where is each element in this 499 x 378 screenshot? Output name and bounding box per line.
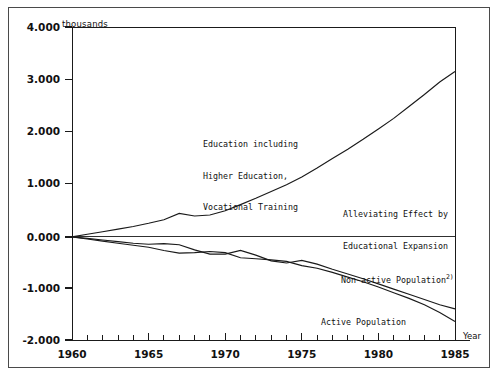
- y-tick-label-1000: 1.000: [0, 177, 60, 189]
- annotation-education-line2: Higher Education,: [203, 171, 298, 182]
- y-tick-label-3000: 3.000: [0, 73, 60, 85]
- y-tick-label-4000: 4.000: [0, 21, 60, 33]
- annotation-active-text: Active Population: [321, 317, 406, 327]
- x-tick-label-1980: 1980: [348, 348, 408, 360]
- annotation-nonactive-population: Non-active Population2): [321, 261, 454, 295]
- x-tick-label-1970: 1970: [195, 348, 255, 360]
- y-tick-label-0000: 0.000: [0, 231, 60, 243]
- x-tick-label-1975: 1975: [272, 348, 332, 360]
- annotation-education: Education including Higher Education, Vo…: [203, 118, 298, 234]
- x-tick-label-1960: 1960: [42, 348, 102, 360]
- x-tick-label-1985: 1985: [425, 348, 485, 360]
- annotation-nonactive-footnote: 2): [446, 273, 454, 281]
- y-tick-label-2000: 2.000: [0, 125, 60, 137]
- x-tick-label-1965: 1965: [119, 348, 179, 360]
- annotation-education-line1: Education including: [203, 139, 298, 150]
- x-axis-name-label: Year: [463, 331, 481, 341]
- y-tick-marks: [65, 27, 72, 340]
- figure-container: thousands 4.000 3.000 2.000 1.000 0.000 …: [0, 0, 499, 378]
- annotation-active-population: Active Population: [301, 306, 406, 338]
- annotation-alleviating-line2: Educational Expansion: [343, 241, 448, 252]
- annotation-education-line3: Vocational Training: [203, 202, 298, 213]
- annotation-nonactive-text: Non-active Population: [341, 274, 446, 284]
- y-tick-label-neg2000: -2.000: [0, 334, 60, 346]
- annotation-alleviating-line1: Alleviating Effect by: [343, 209, 448, 220]
- y-axis-unit-label: thousands: [62, 19, 108, 29]
- annotation-alleviating-effect: Alleviating Effect by Educational Expans…: [343, 188, 448, 272]
- y-tick-label-neg1000: -1.000: [0, 282, 60, 294]
